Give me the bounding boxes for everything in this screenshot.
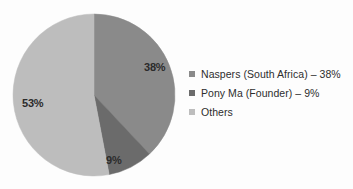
legend-label-pony-ma: Pony Ma (Founder) – 9%	[201, 87, 319, 99]
legend-swatch-icon-naspers	[189, 71, 195, 77]
legend-item-others[interactable]: Others	[189, 102, 353, 121]
slice-label-pony-ma: 9%	[106, 154, 122, 166]
slice-label-others: 53%	[22, 97, 43, 109]
slice-label-naspers: 38%	[144, 61, 165, 73]
chart-canvas: 38% 9% 53% Naspers (South Africa) – 38% …	[0, 0, 353, 189]
legend-swatch-icon-others	[189, 109, 195, 115]
legend-label-naspers: Naspers (South Africa) – 38%	[201, 68, 341, 80]
legend-swatch-icon-pony-ma	[189, 90, 195, 96]
legend-item-pony-ma[interactable]: Pony Ma (Founder) – 9%	[189, 83, 353, 102]
legend-label-others: Others	[201, 106, 233, 118]
legend-item-naspers[interactable]: Naspers (South Africa) – 38%	[189, 64, 353, 83]
chart-legend: Naspers (South Africa) – 38% Pony Ma (Fo…	[189, 64, 353, 121]
pie-slice-group	[13, 14, 175, 176]
